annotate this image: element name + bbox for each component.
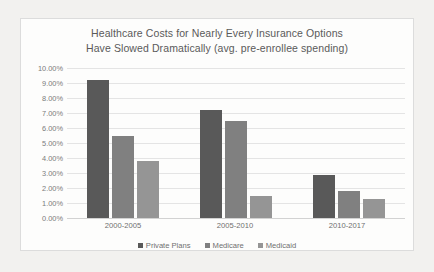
bar [338, 191, 360, 218]
legend-swatch-icon [205, 243, 210, 248]
legend-item[interactable]: Medicaid [258, 241, 296, 250]
plot-area: 0.00%1.00%2.00%3.00%4.00%5.00%6.00%7.00%… [21, 68, 415, 218]
bar-groups [67, 68, 405, 218]
y-axis-tick-label: 2.00% [42, 184, 63, 193]
chart-legend: Private PlansMedicareMedicaid [21, 241, 413, 250]
y-axis-tick-label: 6.00% [42, 124, 63, 133]
legend-label: Medicare [213, 241, 244, 250]
bar [200, 110, 222, 218]
y-axis-tick-label: 10.00% [38, 64, 63, 73]
legend-label: Private Plans [146, 241, 191, 250]
y-axis-tick-label: 5.00% [42, 139, 63, 148]
legend-swatch-icon [138, 243, 143, 248]
bar-group [180, 68, 293, 218]
chart-title-line-1: Healthcare Costs for Nearly Every Insura… [21, 26, 413, 41]
y-axis-tick-label: 9.00% [42, 79, 63, 88]
x-axis-tick-label: 2010-2017 [291, 221, 403, 230]
legend-label: Medicaid [266, 241, 296, 250]
bar-group [292, 68, 405, 218]
bar [313, 175, 335, 219]
y-axis-tick-label: 0.00% [42, 214, 63, 223]
bar [87, 80, 109, 218]
legend-item[interactable]: Private Plans [138, 241, 191, 250]
bar [112, 136, 134, 219]
y-axis-tick-label: 1.00% [42, 199, 63, 208]
y-axis-tick-label: 8.00% [42, 94, 63, 103]
legend-item[interactable]: Medicare [205, 241, 244, 250]
axis-baseline [67, 218, 405, 219]
y-axis-tick-label: 3.00% [42, 169, 63, 178]
bar [363, 199, 385, 219]
bar [225, 121, 247, 219]
x-axis-tick-label: 2000-2005 [67, 221, 179, 230]
x-axis-tick-label: 2005-2010 [179, 221, 291, 230]
legend-swatch-icon [258, 243, 263, 248]
chart-title: Healthcare Costs for Nearly Every Insura… [21, 26, 413, 55]
y-axis-tick-label: 4.00% [42, 154, 63, 163]
bar [137, 161, 159, 218]
bar [250, 196, 272, 219]
y-axis-tick-label: 7.00% [42, 109, 63, 118]
chart-title-line-2: Have Slowed Dramatically (avg. pre-enrol… [21, 41, 413, 56]
chart-container: Healthcare Costs for Nearly Every Insura… [20, 18, 414, 251]
bar-group [67, 68, 180, 218]
y-axis: 0.00%1.00%2.00%3.00%4.00%5.00%6.00%7.00%… [21, 68, 67, 218]
x-axis: 2000-20052005-20102010-2017 [67, 221, 403, 230]
